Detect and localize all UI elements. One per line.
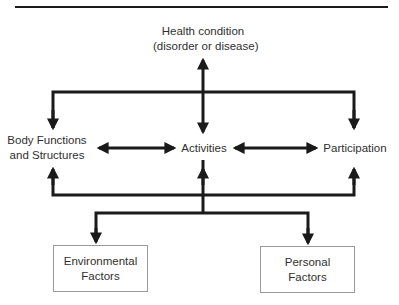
environmental-factors-box: Environmental Factors (53, 245, 148, 292)
activities-node: Activities (178, 141, 230, 156)
personal-line2: Factors (285, 270, 330, 285)
body-functions-node: Body Functions and Structures (0, 133, 94, 163)
health-condition-node: Health condition (disorder or disease) (153, 24, 253, 54)
context-branch (96, 213, 308, 240)
health-condition-title: Health condition (153, 24, 253, 39)
body-functions-line1: Body Functions (0, 133, 94, 148)
personal-line1: Personal (285, 255, 330, 270)
body-functions-line2: and Structures (0, 148, 94, 163)
participation-node: Participation (320, 141, 390, 156)
environmental-line1: Environmental (64, 254, 138, 269)
environmental-line2: Factors (64, 269, 138, 284)
personal-factors-box: Personal Factors (260, 246, 355, 293)
icf-diagram: Health condition (disorder or disease) B… (0, 0, 399, 305)
health-condition-subtitle: (disorder or disease) (153, 39, 253, 54)
